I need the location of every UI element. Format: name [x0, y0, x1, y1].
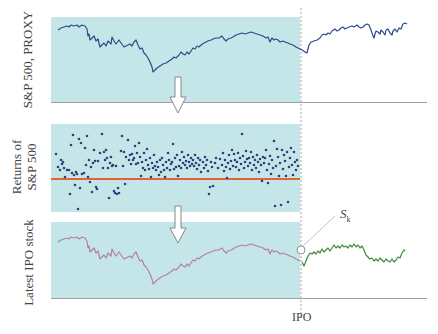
sk-marker — [297, 246, 305, 254]
ipo-post-line — [302, 244, 405, 266]
diagram-graphics — [0, 0, 438, 334]
ipo-marker-label: IPO — [292, 310, 311, 325]
sp500-line — [58, 23, 407, 72]
sk-label: Sk — [340, 206, 351, 224]
returns-dots — [55, 133, 300, 211]
sk-label-subscript: k — [347, 215, 351, 224]
arrow-down-icon — [170, 77, 186, 113]
sk-callout-line — [303, 216, 335, 246]
ipo-pre-line — [58, 237, 300, 284]
arrow-down-icon — [170, 206, 186, 243]
